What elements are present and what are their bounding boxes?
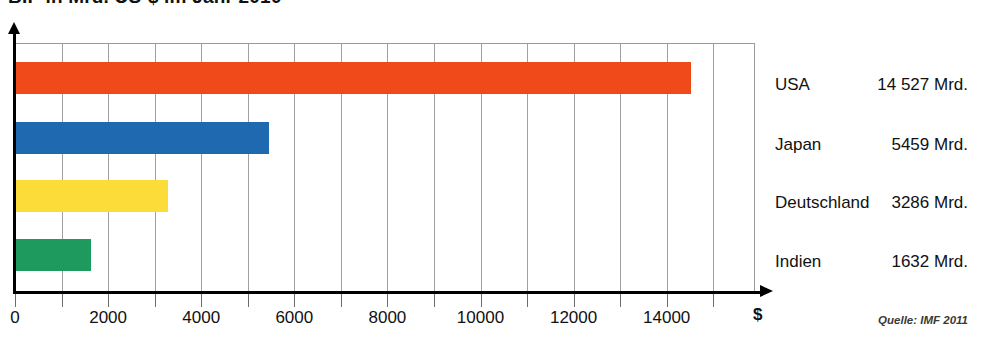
x-tick [434, 294, 435, 307]
x-tick [15, 294, 16, 307]
x-tick [574, 294, 575, 307]
series-value: 3286 Mrd. [848, 193, 968, 213]
x-tick [481, 294, 482, 307]
x-tick [294, 294, 295, 307]
series-value: 1632 Mrd. [848, 252, 968, 272]
series-value: 14 527 Mrd. [848, 75, 968, 95]
x-tick-label: 8000 [368, 308, 406, 328]
bar-deutschland [15, 180, 168, 212]
x-axis-unit-label: $ [753, 305, 762, 325]
plot-area [15, 43, 755, 292]
x-tick [713, 294, 714, 307]
x-tick-label: 6000 [275, 308, 313, 328]
bar-japan [15, 122, 269, 154]
x-tick [341, 294, 342, 307]
x-tick [62, 294, 63, 307]
x-tick [248, 294, 249, 307]
x-tick-label: 12000 [550, 308, 597, 328]
series-value: 5459 Mrd. [848, 135, 968, 155]
source-note: Quelle: IMF 2011 [878, 314, 968, 326]
series-name: Indien [775, 252, 821, 272]
gridline [713, 43, 714, 292]
y-axis-line [13, 30, 16, 294]
x-tick-label: 10000 [457, 308, 504, 328]
x-tick [620, 294, 621, 307]
x-tick [667, 294, 668, 307]
x-tick-label: 2000 [89, 308, 127, 328]
x-tick [108, 294, 109, 307]
x-tick [387, 294, 388, 307]
chart-title: BIP in Mrd. US-$ im Jahr 2010 [8, 0, 282, 8]
x-tick [155, 294, 156, 307]
x-axis-arrow-icon [760, 285, 773, 297]
x-tick-label: 0 [10, 308, 19, 328]
series-name: USA [775, 75, 810, 95]
series-name: Japan [775, 135, 821, 155]
x-tick-label: 4000 [182, 308, 220, 328]
x-tick [527, 294, 528, 307]
bar-usa [15, 62, 691, 94]
x-tick-label: 14000 [643, 308, 690, 328]
bar-indien [15, 239, 91, 271]
x-tick [201, 294, 202, 307]
